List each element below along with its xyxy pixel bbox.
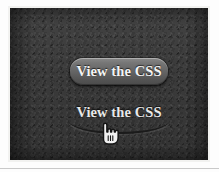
bottom-hairline-rule: [0, 168, 219, 169]
dark-textured-panel: View the CSS View the CSS: [10, 8, 208, 160]
view-the-css-raised-button-label: View the CSS: [76, 63, 161, 80]
view-the-css-raised-button[interactable]: View the CSS: [70, 58, 168, 85]
screenshot-canvas: View the CSS View the CSS: [0, 0, 219, 172]
view-the-css-flat-button[interactable]: View the CSS: [70, 98, 168, 126]
view-the-css-flat-button-label: View the CSS: [76, 104, 161, 121]
